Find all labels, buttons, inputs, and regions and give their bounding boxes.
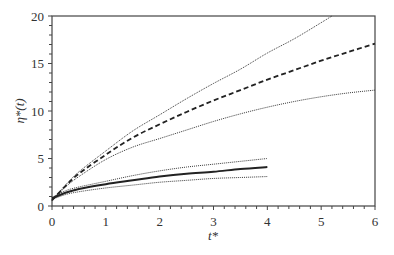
- x-tick-label: 0: [49, 214, 56, 229]
- x-tick-label: 3: [210, 214, 217, 229]
- plot-border: [52, 16, 375, 206]
- series-line-4: [52, 167, 267, 198]
- y-tick-label: 0: [38, 199, 45, 214]
- series-line-1: [52, 44, 375, 201]
- y-axis-label: η*(t): [12, 98, 27, 123]
- y-tick-label: 15: [31, 56, 44, 71]
- x-tick-label: 2: [156, 214, 163, 229]
- x-axis-ticks: 0123456: [49, 206, 379, 229]
- x-axis-label: t*: [208, 228, 219, 243]
- x-tick-label: 4: [264, 214, 271, 229]
- chart: 0123456 05101520 t* η*(t): [0, 0, 394, 255]
- y-tick-label: 20: [31, 9, 44, 24]
- y-axis-ticks: 05101520: [31, 9, 52, 214]
- data-series: [52, 16, 375, 200]
- y-tick-label: 5: [38, 151, 45, 166]
- x-tick-label: 5: [318, 214, 325, 229]
- x-tick-label: 1: [103, 214, 110, 229]
- series-line-2: [52, 90, 375, 200]
- x-tick-label: 6: [372, 214, 379, 229]
- y-tick-label: 10: [31, 104, 44, 119]
- plot-frame: [52, 16, 375, 206]
